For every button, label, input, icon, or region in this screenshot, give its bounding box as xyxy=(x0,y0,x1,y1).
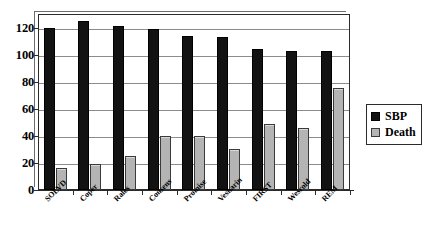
legend-swatch-sbp-icon xyxy=(371,112,380,121)
legend-label-sbp: SBP xyxy=(385,109,407,124)
legend-swatch-death-icon xyxy=(371,128,380,137)
bar-group xyxy=(246,14,281,190)
x-tick-mark xyxy=(142,190,143,195)
y-tick-label: 100 xyxy=(16,47,34,62)
bar-sbp-coper xyxy=(78,21,89,190)
bar-death-rem xyxy=(333,88,344,190)
bar-sbp-solvd xyxy=(44,28,55,190)
bar-chart: 020406080100120 SOLVDCoperRalesConsensPr… xyxy=(0,0,447,247)
y-axis-ticks: 020406080100120 xyxy=(0,0,34,247)
legend-item-death: Death xyxy=(371,125,416,140)
x-tick-mark xyxy=(246,190,247,195)
bars-layer xyxy=(38,14,350,190)
x-tick-mark xyxy=(73,190,74,195)
bar-group xyxy=(107,14,142,190)
bar-group xyxy=(281,14,316,190)
bar-group xyxy=(211,14,246,190)
bar-group xyxy=(142,14,177,190)
x-tick-mark xyxy=(107,190,108,195)
bar-group xyxy=(73,14,108,190)
x-tick-mark xyxy=(211,190,212,195)
x-tick-mark xyxy=(350,190,351,195)
bar-group xyxy=(177,14,212,190)
legend-item-sbp: SBP xyxy=(371,109,416,124)
y-tick-label: 60 xyxy=(22,101,34,116)
bar-sbp-promise xyxy=(182,36,193,190)
x-tick-mark xyxy=(177,190,178,195)
chart-legend: SBP Death xyxy=(366,104,422,145)
bar-group xyxy=(315,14,350,190)
x-tick-mark xyxy=(315,190,316,195)
y-tick-label: 120 xyxy=(16,20,34,35)
legend-label-death: Death xyxy=(385,125,416,140)
y-tick-label: 80 xyxy=(22,74,34,89)
bar-death-first xyxy=(264,124,275,190)
bar-sbp-rales xyxy=(113,26,124,190)
bar-group xyxy=(38,14,73,190)
x-tick-mark xyxy=(281,190,282,195)
bar-sbp-rem xyxy=(321,51,332,190)
bar-sbp-wesrold xyxy=(286,51,297,190)
y-tick-label: 40 xyxy=(22,128,34,143)
bar-sbp-first xyxy=(252,49,263,190)
y-tick-label: 20 xyxy=(22,155,34,170)
bar-sbp-consens xyxy=(148,29,159,190)
bar-sbp-vesnarin xyxy=(217,37,228,190)
